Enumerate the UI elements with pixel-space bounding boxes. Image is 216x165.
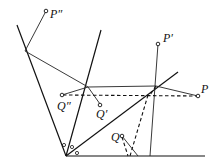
label-q-prime: Q′ [96, 107, 108, 121]
label-q-double-prime: Q″ [57, 99, 72, 113]
label-p: P [200, 82, 209, 96]
ray-p-prime [150, 44, 158, 156]
mirror-line-left [17, 25, 66, 156]
point-q [120, 134, 124, 138]
angle-marker-2 [70, 145, 73, 148]
mirror-line-diagonal [66, 72, 178, 156]
ray-p-double-prime [25, 11, 46, 51]
point-p-prime [156, 42, 160, 46]
point-q-double-prime [60, 93, 64, 97]
label-q: Q [111, 130, 120, 144]
point-p [196, 94, 200, 98]
ray-to-p [156, 86, 198, 96]
point-p-double-prime [44, 9, 48, 13]
ray-left-to-middle [25, 51, 88, 87]
dashed-down-from-diagonal [130, 95, 148, 156]
mirror-line-middle [66, 30, 101, 156]
ray-middle-to-diagonal [88, 86, 156, 87]
angle-marker-1 [62, 143, 65, 146]
angle-marker-3 [75, 151, 78, 154]
label-p-double-prime: P″ [49, 7, 63, 21]
label-p-prime: P′ [162, 31, 173, 45]
reflection-diagram: P″ P′ P Q″ Q′ Q [0, 0, 216, 165]
